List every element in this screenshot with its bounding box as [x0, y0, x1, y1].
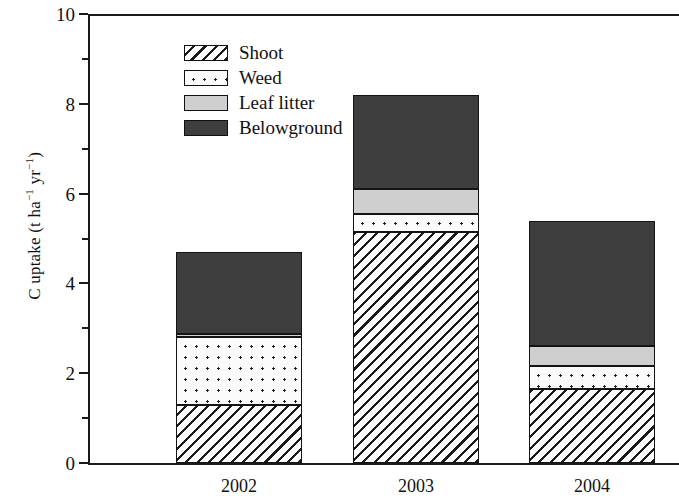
- stacked-bar-chart: C uptake (t ha−1 yr−1) 0246810 200220032…: [0, 0, 679, 501]
- legend: ShootWeedLeaf litterBelowground: [184, 40, 384, 140]
- y-axis-line: [88, 14, 90, 465]
- y-axis-label-suffix: ): [25, 152, 44, 158]
- bar-segment-leaf-litter[interactable]: [353, 189, 479, 214]
- bar-segment-shoot[interactable]: [529, 389, 655, 463]
- legend-item-weed[interactable]: Weed: [184, 65, 384, 90]
- y-axis-label-prefix: C uptake (t ha: [25, 201, 44, 300]
- legend-swatch-icon: [184, 45, 228, 61]
- y-tick-major: [79, 372, 88, 374]
- x-tick-label-2002: 2002: [221, 476, 257, 497]
- y-tick-label: 6: [66, 184, 76, 203]
- x-tick-label-2004: 2004: [574, 476, 610, 497]
- legend-swatch-icon: [184, 70, 228, 86]
- bar-segment-belowground[interactable]: [176, 252, 302, 334]
- y-tick-minor: [82, 148, 88, 150]
- bar-2002[interactable]: [176, 252, 302, 463]
- x-tick-label-2003: 2003: [398, 476, 434, 497]
- bar-segment-weed[interactable]: [529, 366, 655, 388]
- y-axis-label-exponent-2: −1: [23, 158, 35, 170]
- y-tick-label: 4: [66, 274, 76, 293]
- bar-segment-belowground[interactable]: [529, 221, 655, 347]
- y-tick-minor: [82, 58, 88, 60]
- legend-swatch-icon: [184, 95, 228, 111]
- legend-label: Shoot: [239, 43, 283, 62]
- y-tick-minor: [82, 417, 88, 419]
- y-tick-minor: [82, 327, 88, 329]
- bar-segment-shoot[interactable]: [353, 232, 479, 463]
- y-tick-label: 0: [66, 454, 76, 473]
- legend-item-belowground[interactable]: Belowground: [184, 115, 384, 140]
- y-tick-major: [79, 13, 88, 15]
- bar-segment-leaf-litter[interactable]: [176, 334, 302, 338]
- legend-label: Weed: [239, 68, 282, 87]
- legend-swatch-icon: [184, 120, 228, 136]
- y-axis-label-exponent-1: −1: [23, 189, 35, 201]
- y-tick-major: [79, 282, 88, 284]
- y-axis-label-middle: yr: [25, 170, 44, 189]
- legend-label: Belowground: [239, 118, 342, 137]
- bar-2003[interactable]: [353, 95, 479, 463]
- y-tick-major: [79, 103, 88, 105]
- y-tick-minor: [82, 238, 88, 240]
- bar-segment-shoot[interactable]: [176, 405, 302, 463]
- bar-segment-weed[interactable]: [176, 337, 302, 404]
- y-tick-label: 10: [56, 5, 75, 24]
- legend-label: Leaf litter: [239, 93, 314, 112]
- bar-segment-leaf-litter[interactable]: [529, 346, 655, 366]
- y-tick-label: 2: [66, 364, 76, 383]
- y-tick-major: [79, 462, 88, 464]
- plot-area: 0246810 200220032004 ShootWeedLeaf litte…: [88, 14, 679, 465]
- y-axis-label: C uptake (t ha−1 yr−1): [23, 86, 45, 366]
- y-tick-major: [79, 193, 88, 195]
- legend-item-leaf-litter[interactable]: Leaf litter: [184, 90, 384, 115]
- legend-item-shoot[interactable]: Shoot: [184, 40, 384, 65]
- axis-line-top: [88, 14, 679, 16]
- x-axis-line: [88, 463, 679, 465]
- bar-2004[interactable]: [529, 221, 655, 463]
- bar-segment-weed[interactable]: [353, 214, 479, 232]
- y-tick-label: 8: [66, 94, 76, 113]
